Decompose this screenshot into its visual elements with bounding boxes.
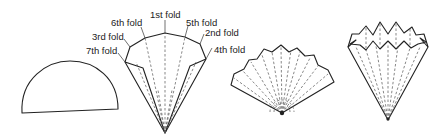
label-2nd-fold: 2nd fold (205, 28, 239, 38)
label-7th-fold: 7th fold (86, 46, 117, 56)
label-1st-fold: 1st fold (150, 10, 181, 20)
fold-diagram: 1st fold 6th fold 5th fold 3rd fold 2nd … (0, 0, 445, 139)
label-6th-fold: 6th fold (111, 18, 142, 28)
label-4th-fold: 4th fold (214, 45, 245, 55)
pleated-fan (231, 45, 334, 115)
semicircle-shape (22, 61, 118, 113)
pleated-cone (348, 22, 428, 121)
label-3rd-fold: 3rd fold (92, 32, 124, 42)
labeled-fold-fan (118, 20, 212, 133)
diagram-drawing (0, 0, 445, 139)
